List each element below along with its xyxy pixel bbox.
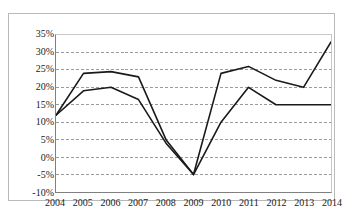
x-tick-label: 2006 [100, 197, 120, 209]
y-tick-label: -5% [37, 170, 54, 180]
y-tick-label: 0% [41, 153, 54, 163]
y-tick-label: 20% [36, 82, 54, 92]
x-tick-label: 2009 [184, 197, 204, 209]
y-tick-label: 25% [36, 64, 54, 74]
y-tick-label: 30% [36, 47, 54, 57]
x-tick-label: 2010 [211, 197, 231, 209]
y-tick-label: 5% [41, 135, 54, 145]
series-line [56, 42, 331, 175]
x-tick-label: 2011 [239, 197, 259, 209]
chart-container: 35%30%25%20%15%10%5%0%-5%-10% 2004200520… [0, 0, 343, 213]
x-tick-label: 2008 [156, 197, 176, 209]
y-tick-label: 15% [36, 100, 54, 110]
series-line [56, 87, 331, 174]
x-tick-label: 2013 [294, 197, 314, 209]
y-tick-label: 35% [36, 29, 54, 39]
series-lines [56, 35, 331, 192]
chart-title [0, 0, 343, 6]
x-tick-label: 2014 [322, 197, 342, 209]
y-axis: 35%30%25%20%15%10%5%0%-5%-10% [17, 27, 55, 193]
x-tick-label: 2012 [267, 197, 287, 209]
y-tick-label: 10% [36, 117, 54, 127]
x-tick-label: 2005 [73, 197, 93, 209]
plot-area [55, 34, 332, 193]
x-axis: 2004200520062007200820092010201120122013… [55, 195, 332, 211]
x-tick-label: 2004 [45, 197, 65, 209]
x-tick-label: 2007 [128, 197, 148, 209]
chart-frame: 35%30%25%20%15%10%5%0%-5%-10% 2004200520… [8, 13, 335, 201]
